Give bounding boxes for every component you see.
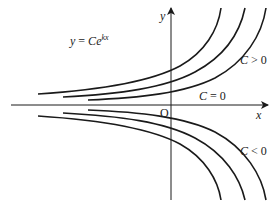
exponential-family-diagram: y = Cekx y x O C > 0 C = 0 C < 0 — [0, 0, 275, 210]
label-c-negative: C < 0 — [240, 144, 267, 158]
x-axis-label: x — [255, 108, 262, 122]
origin-label: O — [160, 106, 169, 120]
label-c-positive: C > 0 — [240, 53, 267, 67]
y-axis-label: y — [159, 9, 166, 23]
label-c-zero: C = 0 — [199, 89, 226, 103]
equation-label: y = Cekx — [69, 33, 109, 48]
curve-c-positive-1 — [38, 8, 221, 94]
curve-c-negative-3 — [38, 116, 221, 200]
